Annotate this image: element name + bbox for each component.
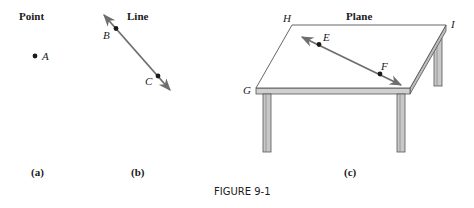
corner-h-label: H bbox=[283, 12, 291, 24]
panel-a-sublabel: (a) bbox=[31, 166, 44, 178]
point-f-label: F bbox=[381, 60, 388, 72]
point-e-label: E bbox=[323, 31, 330, 43]
panel-c-sublabel: (c) bbox=[344, 166, 356, 178]
panel-a-title: Point bbox=[19, 10, 44, 22]
corner-g-label: G bbox=[243, 84, 251, 96]
point-a-label: A bbox=[42, 50, 49, 62]
table-leg-front-right bbox=[397, 94, 405, 152]
point-a-drawing bbox=[33, 54, 38, 59]
figure-9-1: Point Line Plane A B C H I G E F (a) (b)… bbox=[0, 0, 474, 208]
line-bc bbox=[104, 15, 170, 90]
point-c-dot bbox=[156, 74, 161, 79]
figure-caption: FIGURE 9-1 bbox=[214, 186, 271, 197]
panel-b-sublabel: (b) bbox=[131, 166, 144, 178]
panel-c-title: Plane bbox=[346, 10, 372, 22]
corner-i-label: I bbox=[451, 18, 455, 30]
panel-b-title: Line bbox=[127, 10, 148, 22]
point-e-dot bbox=[317, 42, 322, 47]
table-leg-front-left bbox=[263, 94, 271, 152]
table-plane-drawing bbox=[256, 25, 446, 152]
point-b-dot bbox=[114, 26, 119, 31]
point-b-label: B bbox=[103, 29, 110, 41]
table-top-front-edge bbox=[256, 88, 410, 94]
point-c-label: C bbox=[145, 75, 152, 87]
line-bc-drawing bbox=[104, 15, 170, 90]
point-a-dot bbox=[33, 54, 38, 59]
figure-drawing bbox=[0, 0, 474, 208]
point-f-dot bbox=[378, 72, 383, 77]
